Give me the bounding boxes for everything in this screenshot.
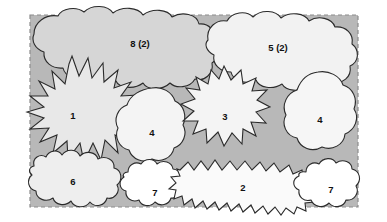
cluster-region-diagram: 8 (2) 5 (2) 1 4 3 4 6 [0,0,387,222]
region-8-label: 8 (2) [130,38,150,49]
region-1-label: 1 [70,110,76,121]
region-4-left-label: 4 [149,127,155,138]
region-6-label: 6 [70,176,75,187]
region-7-left-label: 7 [152,187,157,198]
region-6[interactable]: 6 [29,150,121,207]
region-2-label: 2 [240,182,245,193]
diagram-canvas: 8 (2) 5 (2) 1 4 3 4 6 [0,0,387,222]
region-4-right-label: 4 [317,114,323,125]
region-7-right-label: 7 [328,184,333,195]
region-3-label: 3 [222,111,227,122]
region-5-label: 5 (2) [268,42,288,53]
